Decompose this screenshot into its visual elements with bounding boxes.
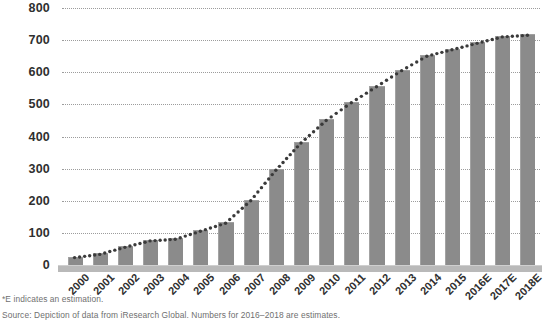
trend-dot [345, 105, 348, 108]
trend-dot [260, 186, 263, 189]
trend-dot [435, 52, 438, 55]
y-axis-tick-label: 200 [29, 194, 50, 208]
trend-dot [425, 54, 428, 57]
trend-dot [194, 231, 197, 234]
trend-dot [133, 243, 136, 246]
trend-dot [511, 35, 514, 38]
trend-dot [158, 239, 161, 242]
trend-dot [450, 48, 453, 51]
trend-dot [204, 228, 207, 231]
y-axis-tick-label: 300 [29, 162, 50, 176]
trend-dot [350, 101, 353, 104]
trend-dot [320, 122, 323, 125]
trend-dot [179, 236, 182, 239]
trend-dot [308, 134, 311, 137]
trend-dot [285, 157, 288, 160]
trend-dot [289, 153, 292, 156]
trend-dot [390, 75, 393, 78]
trend-dot [516, 34, 519, 37]
trend-dot [174, 238, 177, 241]
trend-dot [370, 88, 373, 91]
trend-dot [410, 63, 413, 66]
trend-dot [526, 34, 529, 37]
trend-dot [274, 169, 277, 172]
trend-dot [253, 195, 256, 198]
trend-dot [138, 242, 141, 245]
trend-dot [496, 37, 499, 40]
trend-dot [153, 239, 156, 242]
trend-dot [324, 119, 327, 122]
trend-dot [455, 47, 458, 50]
trend-dot [475, 42, 478, 45]
trend-dot [219, 223, 222, 226]
trend-dot [400, 69, 403, 72]
trend-dot [236, 210, 239, 213]
y-axis-labels: 0100200300400500600700800 [0, 0, 58, 273]
trend-dot [249, 199, 252, 202]
trend-dot [103, 251, 106, 254]
trend-dot [209, 226, 212, 229]
source-footnote: Source: Depiction of data from iResearch… [2, 309, 542, 321]
trend-dot [143, 240, 146, 243]
trend-dot [292, 149, 295, 152]
trend-dot [163, 238, 166, 241]
plot-area [62, 8, 540, 265]
trend-dot [232, 214, 235, 217]
trend-dot [460, 45, 463, 48]
y-axis-tick-label: 0 [43, 258, 50, 272]
trend-dot [316, 126, 319, 129]
trend-dot [267, 177, 270, 180]
trend-dot [148, 239, 151, 242]
trend-dot [245, 203, 248, 206]
trend-dot [168, 238, 171, 241]
trend-dot [83, 255, 86, 258]
y-axis-tick-label: 700 [29, 33, 50, 47]
trend-dot [365, 91, 368, 94]
estimate-footnote: *E indicates an estimation. [2, 293, 542, 305]
trend-dot [199, 230, 202, 233]
y-axis-tick-label: 100 [29, 226, 50, 240]
trend-dot [98, 253, 101, 256]
trend-dot [312, 130, 315, 133]
trend-dot [335, 112, 338, 115]
footnotes: *E indicates an estimation. Source: Depi… [2, 293, 542, 325]
trend-dot [470, 43, 473, 46]
trend-dot [281, 161, 284, 164]
trend-dot [385, 79, 388, 82]
trend-dot [224, 222, 227, 225]
trend-dot [355, 98, 358, 101]
trend-dot [88, 254, 91, 257]
y-axis-tick-label: 500 [29, 97, 50, 111]
y-axis-tick-label: 800 [29, 1, 50, 15]
trend-dot [214, 225, 217, 228]
trend-dot [430, 53, 433, 56]
trend-dot [340, 108, 343, 111]
trend-dot [241, 207, 244, 210]
trend-dot [405, 66, 408, 69]
trend-dot [93, 253, 96, 256]
trend-dot [485, 39, 488, 42]
trend-dot [113, 248, 116, 251]
trend-dot [465, 44, 468, 47]
trend-dot [480, 40, 483, 43]
trend-dot [303, 137, 306, 140]
y-axis-tick-label: 400 [29, 130, 50, 144]
y-axis-tick-label: 600 [29, 65, 50, 79]
trend-dot [296, 145, 299, 148]
trend-dot [271, 173, 274, 176]
trend-dot [395, 72, 398, 75]
trend-dot [501, 35, 504, 38]
trend-dot [506, 35, 509, 38]
trend-dot [380, 82, 383, 85]
trend-dot [299, 141, 302, 144]
trend-dot [420, 57, 423, 60]
trend-dot [445, 49, 448, 52]
trend-dot [73, 256, 76, 259]
trend-dot [415, 60, 418, 63]
trend-dot [184, 234, 187, 237]
trend-dot [263, 182, 266, 185]
trend-dot [189, 233, 192, 236]
trend-dot [521, 34, 524, 37]
trend-line [62, 8, 540, 265]
trend-dot [118, 247, 121, 250]
